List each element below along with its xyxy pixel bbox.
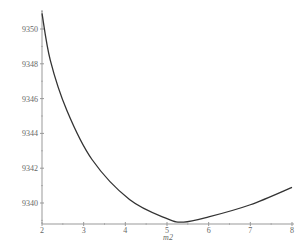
x-tick-label: 2 [40,226,44,235]
y-tick-label: 9350 [22,25,38,34]
y-tick-label: 9342 [22,164,38,173]
y-tick-label: 9348 [22,60,38,69]
x-tick-label: 7 [248,226,252,235]
y-tick-label: 9346 [22,95,38,104]
x-tick-label: 3 [82,226,86,235]
x-axis-label: m2 [163,233,173,242]
data-line [42,13,292,222]
x-tick-label: 6 [207,226,211,235]
y-axis: 934093429344934693489350 [22,10,44,224]
line-chart: 934093429344934693489350 2345678 m2 [0,0,307,251]
y-tick-label: 9344 [22,129,38,138]
x-tick-label: 4 [123,226,127,235]
x-tick-label: 8 [290,226,294,235]
y-tick-label: 9340 [22,199,38,208]
